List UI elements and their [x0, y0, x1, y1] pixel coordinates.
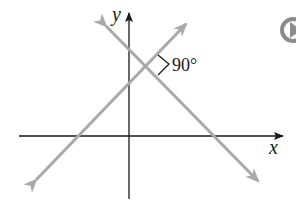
right-angle-marker [158, 55, 169, 75]
y-axis-label: y [110, 3, 121, 26]
play-circle-icon[interactable] [282, 19, 296, 41]
rising-line [36, 24, 186, 180]
coordinate-diagram: y x 90° [0, 0, 296, 201]
angle-label: 90° [172, 55, 197, 75]
x-axis-label: x [268, 136, 278, 158]
